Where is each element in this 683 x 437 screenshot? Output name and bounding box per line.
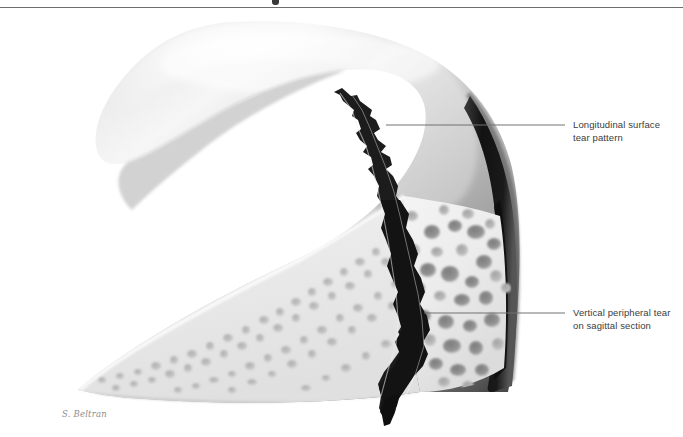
annotation-line-1: Longitudinal surface [573,119,660,132]
artist-signature: S. Beltran [62,409,107,419]
annotation-line-1: Vertical peripheral tear [573,307,670,320]
annotation-line-2: on sagittal section [573,320,670,333]
illustration-figure: Longitudinal surface tear pattern Vertic… [0,0,683,437]
annotation-vertical-peripheral-tear: Vertical peripheral tear on sagittal sec… [573,307,670,332]
meniscus-illustration-svg [0,0,683,437]
annotation-longitudinal-surface-tear: Longitudinal surface tear pattern [573,119,660,144]
annotation-line-2: tear pattern [573,132,660,145]
